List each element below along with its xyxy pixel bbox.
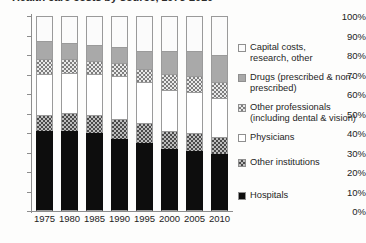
bar-segment[interactable]	[136, 143, 153, 211]
x-axis-tick-label: 1975	[31, 213, 59, 224]
plot-area	[32, 16, 232, 211]
bar-1980[interactable]	[61, 16, 78, 211]
bar-segment[interactable]	[61, 73, 78, 114]
bar-segment[interactable]	[111, 139, 128, 211]
chart-title: Health care costs by source, 1975-2010	[12, 0, 213, 3]
bar-segment[interactable]	[211, 98, 228, 137]
bar-segment[interactable]	[61, 43, 78, 59]
legend-label: Other institutions	[250, 157, 320, 168]
y-axis-tick-label: 0%	[336, 206, 366, 217]
legend-item[interactable]: Other professionals (including dental & …	[238, 102, 356, 124]
bar-segment[interactable]	[161, 74, 178, 90]
x-axis-tick-label: 2005	[181, 213, 209, 224]
bar-segment[interactable]	[111, 63, 128, 77]
y-axis-tick-mark	[27, 211, 31, 212]
bar-segment[interactable]	[36, 115, 53, 131]
y-axis-tick-label: 30%	[336, 147, 366, 158]
bar-segment[interactable]	[36, 74, 53, 115]
bar-segment[interactable]	[61, 131, 78, 211]
bar-segment[interactable]	[161, 51, 178, 74]
bar-1985[interactable]	[86, 16, 103, 211]
x-axis-tick-label: 1995	[131, 213, 159, 224]
bar-segment[interactable]	[161, 149, 178, 211]
bar-segment[interactable]	[86, 74, 103, 115]
bar-2000[interactable]	[161, 16, 178, 211]
bar-segment[interactable]	[86, 61, 103, 75]
bar-segment[interactable]	[136, 69, 153, 83]
y-axis-tick-mark	[27, 133, 31, 134]
chart-figure: Health care costs by source, 1975-2010 0…	[0, 0, 366, 243]
bar-segment[interactable]	[136, 16, 153, 51]
bar-segment[interactable]	[36, 59, 53, 75]
legend-item[interactable]: Drugs (prescribed & non- prescribed)	[238, 72, 354, 94]
bar-segment[interactable]	[186, 16, 203, 51]
legend-item[interactable]: Physicians	[238, 132, 294, 143]
x-axis-tick-label: 2010	[206, 213, 234, 224]
legend-swatch-icon	[238, 192, 246, 200]
y-axis-tick-label: 90%	[336, 30, 366, 41]
bar-segment[interactable]	[111, 76, 128, 119]
bar-segment[interactable]	[211, 82, 228, 98]
bar-segment[interactable]	[186, 151, 203, 211]
bar-segment[interactable]	[36, 16, 53, 41]
legend-swatch-icon	[238, 44, 246, 52]
legend-swatch-icon	[238, 104, 246, 112]
bar-segment[interactable]	[86, 115, 103, 133]
bar-segment[interactable]	[86, 133, 103, 211]
bar-segment[interactable]	[186, 92, 203, 133]
y-axis-tick-mark	[27, 153, 31, 154]
y-axis-tick-mark	[27, 55, 31, 56]
bar-1995[interactable]	[136, 16, 153, 211]
y-axis-tick-mark	[27, 94, 31, 95]
bar-segment[interactable]	[111, 119, 128, 139]
x-axis-tick-label: 1985	[81, 213, 109, 224]
bar-segment[interactable]	[86, 16, 103, 45]
y-axis-tick-label: 40%	[336, 128, 366, 139]
bar-segment[interactable]	[186, 133, 203, 151]
bar-segment[interactable]	[136, 82, 153, 123]
y-axis-tick-mark	[27, 75, 31, 76]
legend-label: Capital costs, research, other	[250, 42, 313, 64]
bar-segment[interactable]	[211, 154, 228, 211]
legend-swatch-icon	[238, 134, 246, 142]
legend-item[interactable]: Other institutions	[238, 157, 320, 168]
bar-segment[interactable]	[61, 16, 78, 43]
bar-segment[interactable]	[61, 113, 78, 131]
legend-label: Drugs (prescribed & non- prescribed)	[250, 72, 354, 94]
bar-1990[interactable]	[111, 16, 128, 211]
legend-label: Physicians	[250, 132, 294, 143]
bar-segment[interactable]	[111, 16, 128, 47]
legend-label: Hospitals	[250, 190, 288, 201]
bar-segment[interactable]	[36, 41, 53, 59]
bar-segment[interactable]	[61, 59, 78, 73]
y-axis-tick-mark	[27, 16, 31, 17]
bar-segment[interactable]	[211, 137, 228, 155]
bar-segment[interactable]	[161, 131, 178, 149]
bar-segment[interactable]	[136, 51, 153, 69]
bar-2005[interactable]	[186, 16, 203, 211]
x-axis-tick-label: 2000	[156, 213, 184, 224]
y-axis-tick-label: 100%	[336, 11, 366, 22]
x-axis-line	[31, 211, 233, 212]
bar-1975[interactable]	[36, 16, 53, 211]
bar-segment[interactable]	[161, 90, 178, 131]
x-axis-tick-label: 1980	[56, 213, 84, 224]
bar-segment[interactable]	[86, 45, 103, 61]
y-axis-tick-label: 80%	[336, 50, 366, 61]
y-axis-tick-mark	[27, 114, 31, 115]
bar-segment[interactable]	[211, 55, 228, 82]
bar-segment[interactable]	[211, 16, 228, 55]
bar-segment[interactable]	[111, 47, 128, 63]
legend-swatch-icon	[238, 74, 246, 82]
y-axis-tick-label: 10%	[336, 186, 366, 197]
legend-item[interactable]: Capital costs, research, other	[238, 42, 313, 64]
bar-2010[interactable]	[211, 16, 228, 211]
bar-segment[interactable]	[161, 16, 178, 51]
bar-segment[interactable]	[186, 76, 203, 92]
bar-segment[interactable]	[186, 51, 203, 76]
y-axis-tick-mark	[27, 192, 31, 193]
bar-segment[interactable]	[136, 123, 153, 143]
y-axis-tick-mark	[27, 172, 31, 173]
legend-item[interactable]: Hospitals	[238, 190, 288, 201]
bar-segment[interactable]	[36, 131, 53, 211]
